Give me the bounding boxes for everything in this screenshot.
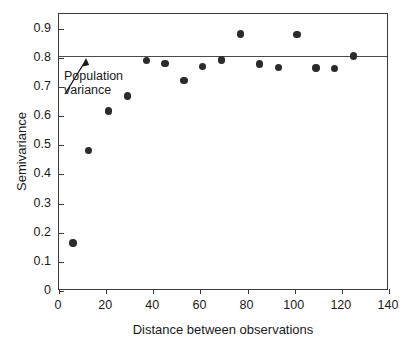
x-tick-label: 0 <box>55 299 62 312</box>
x-tick-mark <box>295 289 296 294</box>
data-point <box>218 56 225 63</box>
x-tick-label: 120 <box>330 299 351 312</box>
data-point <box>350 52 357 59</box>
y-tick-label: 0.3 <box>34 197 51 210</box>
data-point <box>199 63 206 70</box>
data-point <box>293 31 300 38</box>
y-tick-label: 0 <box>44 284 51 297</box>
data-point <box>312 64 319 71</box>
y-tick-label: 0.7 <box>34 80 51 93</box>
data-point <box>85 147 92 154</box>
y-tick-label: 0.8 <box>34 51 51 64</box>
x-tick-mark <box>200 289 201 294</box>
data-point <box>237 30 244 37</box>
x-tick-mark <box>342 289 343 294</box>
x-tick-label: 140 <box>378 299 399 312</box>
plot-inner <box>59 14 387 289</box>
data-point <box>331 65 338 72</box>
x-axis-title: Distance between observations <box>58 322 388 337</box>
x-tick-label: 20 <box>98 299 112 312</box>
y-tick-mark <box>59 116 64 117</box>
y-tick-mark <box>59 29 64 30</box>
x-tick-label: 80 <box>240 299 254 312</box>
data-point <box>180 77 187 84</box>
x-tick-mark <box>106 289 107 294</box>
y-tick-mark <box>59 233 64 234</box>
x-tick-label: 60 <box>192 299 206 312</box>
data-point <box>105 107 112 114</box>
y-tick-mark <box>59 204 64 205</box>
data-point <box>69 239 76 246</box>
y-tick-label: 0.9 <box>34 22 51 35</box>
x-tick-mark <box>153 289 154 294</box>
data-point <box>143 57 150 64</box>
y-tick-label: 0.1 <box>34 255 51 268</box>
annotation-line-2: variance <box>64 83 123 97</box>
data-point <box>161 60 168 67</box>
y-tick-label: 0.2 <box>34 226 51 239</box>
x-tick-mark <box>389 289 390 294</box>
data-point <box>124 92 131 99</box>
y-tick-label: 0.4 <box>34 167 51 180</box>
y-axis-title: Semivariance <box>14 13 32 290</box>
y-tick-label: 0.6 <box>34 109 51 122</box>
plot-area <box>58 13 388 290</box>
x-tick-mark <box>248 289 249 294</box>
y-tick-mark <box>59 174 64 175</box>
population-variance-annotation: Population variance <box>64 69 123 97</box>
annotation-line-1: Population <box>64 69 123 83</box>
y-tick-label: 0.5 <box>34 138 51 151</box>
y-tick-mark <box>59 262 64 263</box>
semivariogram-figure: 00.10.20.30.40.50.60.70.80.9 02040608010… <box>0 0 410 351</box>
data-point <box>256 60 263 67</box>
x-tick-label: 40 <box>145 299 159 312</box>
x-tick-label: 100 <box>283 299 304 312</box>
y-tick-mark <box>59 145 64 146</box>
x-tick-mark <box>59 289 60 294</box>
data-point <box>275 64 282 71</box>
